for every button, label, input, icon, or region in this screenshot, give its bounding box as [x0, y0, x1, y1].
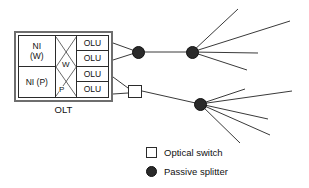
olt-grid: NI (W) NI (P)	[19, 36, 108, 97]
legend-label-optical-switch: Optical switch	[164, 147, 223, 158]
olu-unit-3: OLU	[77, 67, 108, 82]
olu-unit-4-label: OLU	[84, 84, 101, 94]
ni-cell-protection: NI (P)	[19, 67, 55, 98]
network-topology-figure: NI (W) NI (P)	[0, 0, 309, 188]
olu-unit-1-label: OLU	[84, 38, 101, 48]
ni-cell-working: NI (W)	[19, 36, 55, 67]
passive-splitter-working	[132, 46, 145, 59]
ni-working-line1: NI	[33, 41, 42, 51]
olu-column: OLU OLU OLU OLU	[77, 36, 108, 97]
legend-item-optical-switch: Optical switch	[146, 143, 228, 162]
ni-working-line2: (W)	[30, 51, 44, 61]
drop-upper-1	[192, 9, 238, 52]
legend-label-passive-splitter: Passive splitter	[164, 166, 228, 177]
olu-unit-1: OLU	[77, 36, 108, 51]
legend-item-passive-splitter: Passive splitter	[146, 162, 228, 181]
olt-chassis-inner: NI (W) NI (P)	[18, 35, 109, 98]
olu-unit-2: OLU	[77, 51, 108, 66]
drop-upper-2	[192, 21, 290, 52]
crossbar-label-working: W	[61, 61, 70, 69]
passive-splitter-icon	[146, 166, 157, 177]
ni-column: NI (W) NI (P)	[19, 36, 55, 97]
drop-lower-4	[200, 104, 270, 135]
link-olu4-switch	[113, 93, 128, 94]
link-switch-splitter-lower	[142, 91, 200, 104]
drop-lower-5	[200, 104, 240, 143]
olu-unit-3-label: OLU	[84, 69, 101, 79]
optical-switch	[128, 85, 142, 98]
drop-lower-3	[200, 104, 268, 119]
olt-chassis: NI (W) NI (P)	[14, 31, 113, 102]
drop-lower-2	[200, 91, 292, 104]
olu-unit-2-label: OLU	[84, 53, 101, 63]
passive-splitter-lower	[194, 98, 207, 111]
drop-upper-3	[192, 52, 258, 53]
passive-splitter-upper	[186, 46, 199, 59]
crossbar-column: W P	[55, 36, 77, 97]
ni-protection-line1: NI (P)	[26, 77, 48, 87]
optical-switch-icon	[146, 147, 157, 158]
legend: Optical switch Passive splitter	[146, 143, 228, 181]
drop-lower-1	[200, 89, 245, 104]
olu-unit-4: OLU	[77, 82, 108, 97]
link-olu3-switch	[113, 77, 128, 88]
drop-upper-4	[192, 52, 247, 70]
crossbar-label-protection: P	[58, 86, 64, 94]
olt-caption: OLT	[14, 104, 113, 115]
